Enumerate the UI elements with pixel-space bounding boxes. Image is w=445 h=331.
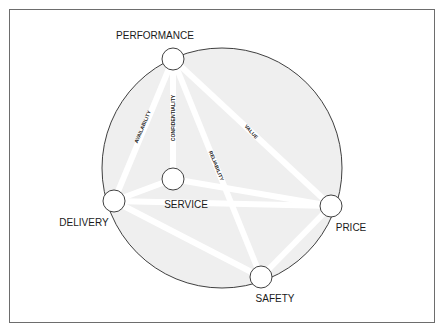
outer-circle (102, 48, 342, 288)
node-label-performance: PERFORMANCE (116, 30, 194, 41)
node-label-service: SERVICE (164, 199, 208, 210)
node-safety (250, 266, 272, 288)
node-label-safety: SAFETY (256, 293, 295, 304)
edge-label-confidentiality: CONFIDENTIALITY (170, 94, 176, 141)
node-label-price: PRICE (336, 222, 367, 233)
node-price (320, 195, 342, 217)
node-service (162, 168, 184, 190)
node-label-delivery: DELIVERY (59, 217, 109, 228)
node-delivery (103, 190, 125, 212)
relationship-diagram: AVAILABILITYCONFIDENTIALITYRELIABILITYVA… (0, 0, 445, 331)
node-performance (162, 48, 184, 70)
